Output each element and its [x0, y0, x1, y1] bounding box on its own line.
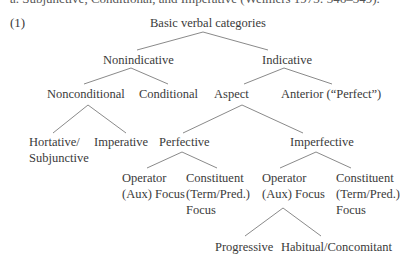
node-line: Operator [262, 170, 325, 186]
edge-operator-progressive [245, 208, 283, 236]
node-basic-verbal-categories: Basic verbal categories [150, 15, 266, 31]
edge-imperfective-constituent [316, 152, 351, 168]
node-imperfective-operator-focus: Operator (Aux) Focus [262, 170, 325, 202]
edge-nonconditional-hortative [53, 105, 88, 133]
node-conditional: Conditional [139, 86, 198, 102]
edge-nonindicative-conditional [131, 68, 168, 84]
node-line: Constituent [186, 170, 250, 186]
edge-aspect-imperfective [242, 105, 303, 133]
node-line: (Aux) Focus [262, 186, 325, 202]
edge-indicative-anterior [284, 68, 332, 84]
edge-perfective-operator [147, 152, 182, 168]
node-perfective: Perfective [159, 134, 210, 150]
node-perfective-constituent-focus: Constituent (Term/Pred.) Focus [186, 170, 250, 218]
node-nonindicative: Nonindicative [103, 52, 174, 68]
edge-root-indicative [203, 32, 268, 50]
node-line: (Term/Pred.) [336, 186, 400, 202]
edge-indicative-aspect [244, 68, 284, 84]
node-anterior-perfect: Anterior (“Perfect”) [281, 86, 381, 102]
edge-imperfective-operator [280, 152, 316, 168]
tree-edges [0, 0, 411, 265]
node-hortative-line2: Subjunctive [29, 150, 89, 166]
node-line: (Aux) Focus [122, 186, 185, 202]
node-imperfective-constituent-focus: Constituent (Term/Pred.) Focus [336, 170, 400, 218]
node-line: Focus [336, 202, 400, 218]
edge-aspect-perfective [183, 105, 242, 133]
node-perfective-operator-focus: Operator (Aux) Focus [122, 170, 185, 202]
node-imperfective: Imperfective [290, 134, 354, 150]
node-line: Constituent [336, 170, 400, 186]
node-hortative-line1: Hortative/ [29, 134, 89, 150]
node-line: Operator [122, 170, 185, 186]
node-line: (Term/Pred.) [186, 186, 250, 202]
node-aspect: Aspect [214, 86, 249, 102]
node-nonconditional: Nonconditional [47, 86, 125, 102]
edge-nonconditional-imperative [88, 105, 126, 133]
edge-perfective-constituent [182, 152, 217, 168]
node-habitual-concomitant: Habitual/Concomitant [281, 239, 392, 255]
edge-operator-habitual [283, 208, 321, 236]
node-hortative-subjunctive: Hortative/ Subjunctive [29, 134, 89, 166]
node-progressive: Progressive [215, 239, 273, 255]
edge-root-nonindicative [137, 32, 203, 50]
edge-nonindicative-nonconditional [84, 68, 131, 84]
node-line: Focus [186, 202, 250, 218]
node-indicative: Indicative [262, 52, 312, 68]
node-imperative: Imperative [94, 134, 148, 150]
